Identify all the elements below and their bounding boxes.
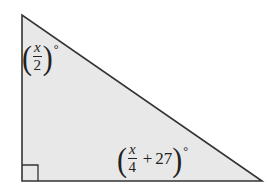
bottom-right-angle-label: ( x 4 + 27 ) ° [117, 142, 188, 175]
plus-sign: + [143, 149, 153, 169]
left-paren: ( [22, 39, 32, 74]
numerator: x [128, 142, 137, 157]
top-angle-label: ( x 2 ) ° [22, 40, 58, 73]
numerator: x [33, 40, 42, 55]
fraction-x-over-4: x 4 [128, 142, 137, 175]
constant-27: 27 [155, 149, 172, 169]
right-paren: ) [43, 39, 53, 74]
left-paren: ( [117, 141, 127, 176]
fraction-x-over-2: x 2 [33, 40, 42, 73]
right-paren: ) [172, 141, 182, 176]
degree-symbol: ° [54, 42, 59, 57]
denominator: 2 [34, 58, 42, 73]
degree-symbol: ° [183, 144, 188, 159]
denominator: 4 [129, 160, 137, 175]
